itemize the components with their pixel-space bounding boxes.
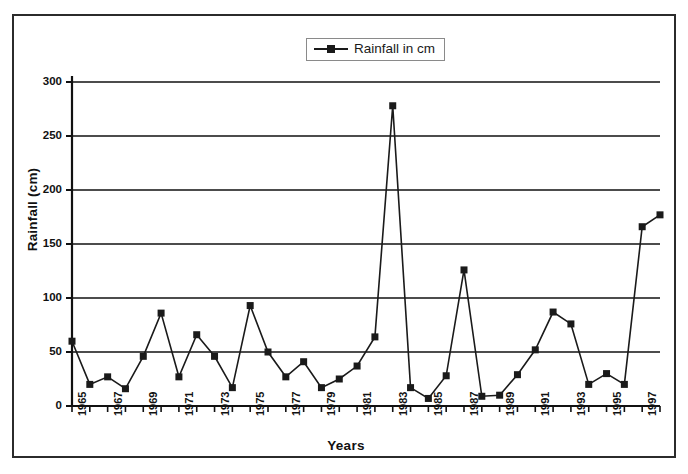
x-tick-label: 1989	[505, 392, 516, 416]
y-tick-label: 150	[20, 238, 62, 250]
y-tick-label: 50	[20, 346, 62, 358]
x-tick-label: 1973	[220, 392, 231, 416]
x-tick-label: 1967	[113, 392, 124, 416]
plot-area: Rainfall (cm) Years 050100150200250300 1…	[14, 16, 678, 460]
axis-lines	[72, 76, 660, 406]
x-tick-label: 1991	[540, 392, 551, 416]
x-tick-label: 1993	[576, 392, 587, 416]
x-tick-label: 1985	[433, 392, 444, 416]
x-tick-label: 1969	[148, 392, 159, 416]
x-tick-label: 1987	[469, 392, 480, 416]
x-tick-label: 1975	[255, 392, 266, 416]
chart-figure: Rainfall in cm Rainfall (cm) Years 05010…	[12, 14, 676, 458]
data-series-markers	[69, 102, 664, 402]
x-tick-label: 1983	[398, 392, 409, 416]
y-tick-label: 0	[20, 400, 62, 412]
y-tick-label: 200	[20, 184, 62, 196]
y-tick-label: 300	[20, 76, 62, 88]
x-tick-label: 1977	[291, 392, 302, 416]
x-tick-label: 1981	[362, 392, 373, 416]
data-series-line	[72, 106, 660, 399]
x-tick-label: 1997	[647, 392, 658, 416]
y-tick-label: 100	[20, 292, 62, 304]
x-tick-label: 1979	[326, 392, 337, 416]
x-tick-label: 1965	[77, 392, 88, 416]
x-tick-label: 1971	[184, 392, 195, 416]
x-tick-label: 1995	[612, 392, 623, 416]
y-tick-label: 250	[20, 130, 62, 142]
